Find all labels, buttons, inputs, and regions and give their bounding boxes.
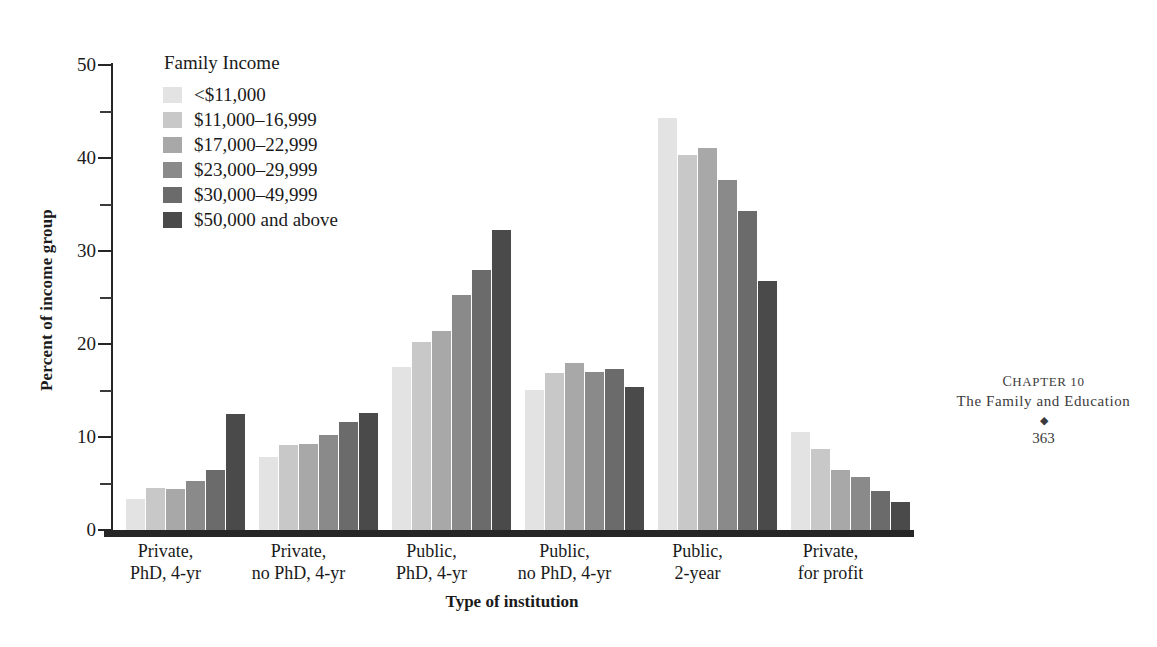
legend-entry-label: $17,000–22,999 <box>194 134 318 155</box>
bar <box>585 372 604 530</box>
category-label-line: PhD, 4-yr <box>98 562 233 584</box>
chart-figure: 01020304050 Percent of income group Priv… <box>0 0 930 647</box>
legend-swatch-icon <box>163 87 182 103</box>
x-axis-title: Type of institution <box>112 592 912 612</box>
bar <box>472 270 491 530</box>
bar <box>605 369 624 530</box>
bar <box>718 180 737 530</box>
legend-swatch-icon <box>163 187 182 203</box>
y-axis-tick-major <box>98 64 112 66</box>
legend-entry-label: <$11,000 <box>194 84 266 105</box>
bar <box>871 491 890 530</box>
x-axis-category-label: Private,no PhD, 4-yr <box>231 540 366 584</box>
bar <box>392 367 411 530</box>
bar <box>279 445 298 530</box>
x-axis-category-label: Public,2-year <box>630 540 765 584</box>
diamond-ornament-icon: ◆ <box>930 415 1157 426</box>
bar <box>432 331 451 530</box>
bar <box>166 489 185 530</box>
bar <box>545 373 564 530</box>
page-footer: CHAPTER 10 The Family and Education ◆ 36… <box>930 372 1157 447</box>
legend-entry: <$11,000 <box>163 82 423 107</box>
bar <box>791 432 810 530</box>
category-label-line: 2-year <box>630 562 765 584</box>
bar <box>492 230 511 530</box>
category-label-line: Public, <box>364 540 499 562</box>
footer-chapter-title: The Family and Education <box>930 393 1157 410</box>
legend-entry-label: $50,000 and above <box>194 209 338 230</box>
x-axis-category-label: Private,for profit <box>763 540 898 584</box>
category-label-line: for profit <box>763 562 898 584</box>
y-axis-tick-minor <box>100 483 112 485</box>
bar <box>851 477 870 530</box>
y-axis-tick-major <box>98 250 112 252</box>
legend-swatch-icon <box>163 137 182 153</box>
category-label-line: no PhD, 4-yr <box>231 562 366 584</box>
category-label-line: Private, <box>763 540 898 562</box>
footer-chapter-label: CHAPTER 10 <box>930 372 1157 390</box>
y-axis-tick-major <box>98 343 112 345</box>
category-label-line: PhD, 4-yr <box>364 562 499 584</box>
legend-entry: $23,000–29,999 <box>163 157 423 182</box>
bar <box>678 155 697 530</box>
bar <box>259 457 278 530</box>
legend-entry: $11,000–16,999 <box>163 107 423 132</box>
legend-swatch-icon <box>163 162 182 178</box>
legend-entry-label: $11,000–16,999 <box>194 109 317 130</box>
legend-swatch-icon <box>163 112 182 128</box>
legend-entry-label: $23,000–29,999 <box>194 159 318 180</box>
x-axis-category-label: Private,PhD, 4-yr <box>98 540 233 584</box>
bar <box>359 413 378 530</box>
y-axis-tick-label: 50 <box>36 55 96 74</box>
x-axis-category-label: Public,no PhD, 4-yr <box>497 540 632 584</box>
legend-entries: <$11,000$11,000–16,999$17,000–22,999$23,… <box>163 82 423 232</box>
bar-group <box>658 65 778 530</box>
bar <box>758 281 777 530</box>
y-axis-tick-minor <box>100 390 112 392</box>
bar <box>186 481 205 530</box>
y-axis-tick-label: 0 <box>36 520 96 539</box>
bar-group <box>791 65 911 530</box>
category-label-line: Private, <box>231 540 366 562</box>
y-axis-tick-minor <box>100 111 112 113</box>
legend-swatch-icon <box>163 212 182 228</box>
bar <box>625 387 644 530</box>
category-label-line: Public, <box>497 540 632 562</box>
y-axis-tick-major <box>98 157 112 159</box>
legend-entry: $30,000–49,999 <box>163 182 423 207</box>
legend-title: Family Income <box>164 52 423 74</box>
bar <box>891 502 910 530</box>
bar <box>319 435 338 530</box>
bar <box>226 414 245 530</box>
bar <box>658 118 677 530</box>
bar <box>412 342 431 530</box>
y-axis-tick-minor <box>100 204 112 206</box>
category-label-line: Public, <box>630 540 765 562</box>
category-label-line: no PhD, 4-yr <box>497 562 632 584</box>
bar-group <box>525 65 645 530</box>
legend-entry: $17,000–22,999 <box>163 132 423 157</box>
bar <box>698 148 717 530</box>
bar <box>299 444 318 530</box>
bar <box>525 390 544 530</box>
chart-legend: Family Income <$11,000$11,000–16,999$17,… <box>163 52 423 232</box>
bar <box>738 211 757 530</box>
bar <box>831 470 850 530</box>
bar <box>452 295 471 530</box>
y-axis-title: Percent of income group <box>37 135 57 465</box>
y-axis-tick-major <box>98 529 112 531</box>
bar <box>206 470 225 530</box>
legend-entry: $50,000 and above <box>163 207 423 232</box>
x-axis-line <box>104 530 914 537</box>
category-label-line: Private, <box>98 540 233 562</box>
page-number: 363 <box>930 430 1157 447</box>
bar <box>339 422 358 530</box>
y-axis-tick-minor <box>100 297 112 299</box>
legend-entry-label: $30,000–49,999 <box>194 184 318 205</box>
bar <box>811 449 830 530</box>
x-axis-category-label: Public,PhD, 4-yr <box>364 540 499 584</box>
bar <box>146 488 165 530</box>
bar <box>565 363 584 530</box>
y-axis-tick-major <box>98 436 112 438</box>
bar <box>126 499 145 530</box>
